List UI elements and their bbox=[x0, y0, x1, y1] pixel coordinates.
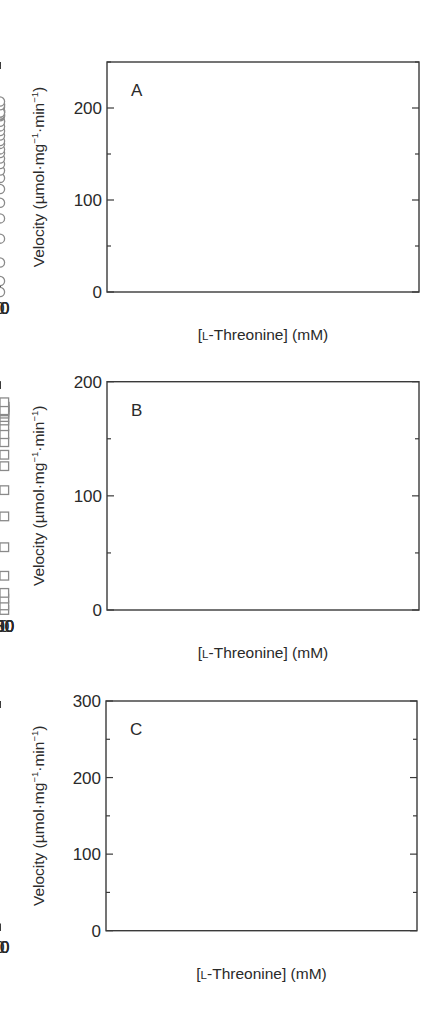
x-tick-label: 60 bbox=[0, 938, 9, 957]
y-tick-label: 0 bbox=[92, 922, 101, 941]
square-marker bbox=[0, 512, 9, 521]
square-marker bbox=[0, 398, 9, 407]
square-marker bbox=[0, 438, 9, 447]
plot-frame bbox=[107, 382, 419, 610]
square-marker bbox=[0, 406, 9, 415]
y-tick-label: 0 bbox=[93, 283, 102, 302]
y-tick-label: 100 bbox=[73, 845, 101, 864]
y-tick-label: 100 bbox=[74, 487, 102, 506]
panel-a-chart: 02040600100200A[L-Threonine] (mM)Velocit… bbox=[0, 62, 419, 343]
circle-marker bbox=[0, 234, 5, 243]
y-tick-label: 0 bbox=[93, 601, 102, 620]
circle-marker bbox=[0, 287, 5, 296]
x-tick-label: 60 bbox=[0, 299, 9, 318]
axis-ticks bbox=[0, 62, 419, 292]
square-marker bbox=[0, 589, 9, 598]
circle-marker bbox=[0, 214, 5, 223]
circle-marker bbox=[0, 276, 5, 285]
x-axis-label: [L-Threonine] (mM) bbox=[198, 326, 328, 343]
circle-marker bbox=[0, 258, 5, 267]
x-tick-label: 250 bbox=[0, 617, 14, 636]
square-marker bbox=[0, 462, 9, 471]
circle-marker bbox=[0, 97, 5, 106]
circle-marker bbox=[0, 184, 5, 193]
panel-label: A bbox=[131, 81, 143, 100]
axis-ticks bbox=[0, 382, 419, 610]
y-tick-label: 200 bbox=[73, 769, 101, 788]
panel-c-chart: 02040600100200300C[L-Threonine] (mM)Velo… bbox=[0, 692, 417, 982]
y-tick-label: 200 bbox=[74, 99, 102, 118]
y-tick-label: 300 bbox=[73, 692, 101, 711]
x-axis-label: [L-Threonine] (mM) bbox=[198, 644, 328, 661]
y-tick-label: 200 bbox=[74, 373, 102, 392]
plot-frame bbox=[107, 62, 419, 292]
data-points bbox=[0, 398, 9, 614]
y-axis-label: Velocity (µmol·mg−1·min−1) bbox=[29, 87, 47, 268]
plot-frame bbox=[106, 701, 417, 931]
panel-label: C bbox=[130, 720, 142, 739]
square-marker bbox=[0, 486, 9, 495]
figure-canvas: 02040600100200A[L-Threonine] (mM)Velocit… bbox=[0, 0, 436, 1023]
square-marker bbox=[0, 430, 9, 439]
axis-ticks bbox=[0, 701, 417, 931]
square-marker bbox=[0, 450, 9, 459]
data-points bbox=[0, 97, 5, 297]
y-axis-label: Velocity (µmol·mg−1·min−1) bbox=[29, 726, 47, 907]
x-axis-label: [L-Threonine] (mM) bbox=[196, 965, 326, 982]
y-axis-label: Velocity (µmol·mg−1·min−1) bbox=[29, 406, 47, 586]
square-marker bbox=[0, 571, 9, 580]
y-tick-label: 100 bbox=[74, 191, 102, 210]
panel-label: B bbox=[131, 401, 142, 420]
circle-marker bbox=[0, 198, 5, 207]
panel-b-chart: 0501001502002500100200B[L-Threonine] (mM… bbox=[0, 373, 419, 661]
square-marker bbox=[0, 543, 9, 552]
